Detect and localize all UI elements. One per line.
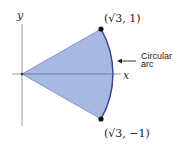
point-bottom-label: (√3, −1) — [104, 127, 150, 140]
point-top-label: (√3, 1) — [104, 12, 141, 25]
arrowhead-icon — [117, 59, 122, 64]
sector-diagram: y x (√3, 1) (√3, −1) Circular arc — [0, 0, 178, 144]
point-top — [98, 26, 103, 31]
x-axis-label: x — [123, 69, 130, 82]
point-bottom — [98, 116, 103, 121]
y-axis-label: y — [16, 9, 24, 22]
annotation-line2: arc — [141, 59, 154, 69]
origin-dot — [21, 73, 23, 75]
